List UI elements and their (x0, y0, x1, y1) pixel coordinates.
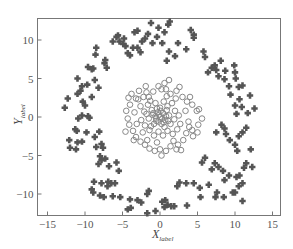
data-point-plus-marker (231, 62, 237, 68)
data-point-plus-marker (164, 58, 170, 64)
data-point-circle-marker (195, 130, 201, 136)
data-point-circle-marker (140, 130, 146, 136)
data-point-plus-marker (215, 73, 221, 79)
data-point-plus-marker (197, 185, 203, 191)
data-point-plus-marker (65, 95, 71, 101)
data-point-circle-marker (132, 110, 138, 116)
y-axis-label: Ylabel (11, 104, 27, 125)
data-point-plus-marker (154, 34, 160, 40)
data-point-circle-marker (163, 148, 169, 154)
data-point-circle-marker (159, 153, 165, 159)
data-point-plus-marker (209, 166, 215, 172)
data-point-plus-marker (184, 202, 190, 208)
data-point-plus-marker (96, 128, 102, 134)
data-point-plus-marker (159, 40, 165, 46)
data-point-circle-marker (157, 147, 163, 153)
data-point-plus-marker (110, 38, 116, 44)
data-point-circle-marker (199, 116, 205, 122)
data-point-circle-marker (143, 83, 149, 89)
x-tick-label: 5 (195, 218, 201, 230)
data-point-circle-marker (180, 137, 186, 143)
data-point-plus-marker (93, 45, 99, 51)
data-point-plus-marker (232, 142, 238, 148)
data-point-circle-marker (151, 133, 157, 139)
data-point-circle-marker (171, 117, 177, 123)
data-point-plus-marker (149, 40, 155, 46)
data-point-circle-marker (134, 121, 140, 127)
data-point-circle-marker (154, 140, 160, 146)
data-point-plus-marker (236, 96, 242, 102)
data-point-circle-marker (195, 122, 201, 128)
data-point-circle-marker (138, 139, 144, 145)
data-point-plus-marker (106, 163, 112, 169)
data-point-plus-marker (234, 148, 240, 154)
data-point-plus-marker (117, 194, 123, 200)
data-point-plus-marker (227, 91, 233, 97)
data-point-circle-marker (136, 88, 142, 94)
data-point-circle-marker (165, 128, 171, 134)
x-tick-label: 10 (230, 218, 242, 230)
data-point-plus-marker (161, 29, 167, 35)
data-point-circle-marker (171, 138, 177, 144)
data-point-circle-marker (138, 103, 144, 109)
x-tick-label: −15 (39, 218, 57, 230)
data-point-circle-marker (166, 77, 172, 83)
data-point-plus-marker (62, 105, 68, 111)
y-tick-label: 5 (28, 73, 34, 85)
data-point-plus-marker (239, 129, 245, 135)
data-point-plus-marker (67, 145, 73, 151)
data-point-plus-marker (66, 137, 72, 143)
data-point-plus-marker (113, 159, 119, 165)
data-point-plus-marker (191, 180, 197, 186)
data-point-plus-marker (218, 58, 224, 64)
data-point-plus-marker (221, 76, 227, 82)
data-point-plus-marker (175, 40, 181, 46)
data-point-circle-marker (174, 127, 180, 133)
data-point-plus-marker (148, 20, 154, 26)
data-point-circle-marker (168, 143, 174, 149)
data-point-plus-marker (232, 69, 238, 75)
data-point-circle-marker (150, 89, 156, 95)
data-point-circle-marker (152, 148, 158, 154)
data-point-circle-marker (177, 84, 183, 90)
data-point-circle-marker (144, 137, 150, 143)
data-point-circle-marker (130, 128, 136, 134)
data-point-circle-marker (174, 88, 180, 94)
data-point-circle-marker (123, 108, 129, 114)
data-point-plus-marker (183, 180, 189, 186)
data-point-plus-marker (79, 138, 85, 144)
data-point-circle-marker (126, 95, 132, 101)
data-point-plus-marker (233, 75, 239, 81)
data-point-plus-marker (166, 48, 172, 54)
data-point-plus-marker (239, 198, 245, 204)
data-point-circle-marker (170, 131, 176, 137)
series-inner-cluster (123, 77, 205, 158)
data-point-plus-marker (152, 208, 158, 214)
data-point-circle-marker (183, 130, 189, 136)
data-point-plus-marker (236, 133, 242, 139)
data-point-plus-marker (222, 68, 228, 74)
data-point-circle-marker (186, 119, 192, 125)
data-point-plus-marker (251, 105, 257, 111)
data-point-circle-marker (177, 121, 183, 127)
data-point-circle-marker (153, 100, 159, 106)
data-point-circle-marker (187, 94, 193, 100)
data-point-plus-marker (112, 180, 118, 186)
data-point-plus-marker (89, 94, 95, 100)
data-point-circle-marker (164, 107, 170, 113)
data-point-circle-marker (126, 122, 132, 128)
data-point-plus-marker (172, 53, 178, 59)
data-point-plus-marker (127, 196, 133, 202)
data-point-plus-marker (116, 168, 122, 174)
data-point-circle-marker (125, 116, 131, 122)
y-tick-label: 0 (28, 111, 34, 123)
data-point-plus-marker (221, 194, 227, 200)
x-tick-label: 15 (267, 218, 279, 230)
data-point-plus-marker (232, 102, 238, 108)
data-point-plus-marker (92, 134, 98, 140)
data-point-plus-marker (226, 172, 232, 178)
data-point-plus-marker (205, 69, 211, 75)
data-point-plus-marker (213, 129, 219, 135)
data-point-plus-marker (73, 146, 79, 152)
data-point-plus-marker (197, 194, 203, 200)
